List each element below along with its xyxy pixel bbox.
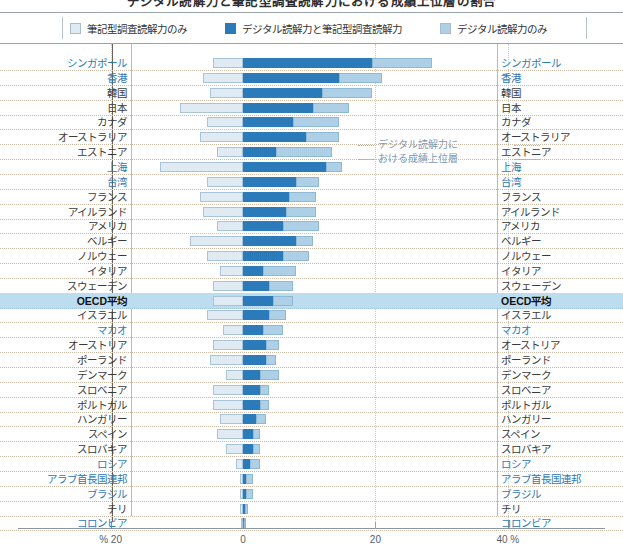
bar-segment-both — [243, 370, 260, 380]
bar-segment-print-only — [217, 429, 243, 439]
bar-segment-both — [243, 400, 260, 410]
bar-group[interactable] — [131, 355, 497, 365]
bar-segment-both — [243, 266, 263, 276]
country-label-right: スロベニア — [501, 382, 621, 398]
x-tick-0 — [243, 521, 244, 529]
country-label-left: オーストリア — [0, 337, 127, 353]
bar-group[interactable] — [131, 429, 497, 439]
bar-segment-digital-only — [266, 340, 279, 350]
bar-group[interactable] — [131, 117, 497, 127]
country-label-left: スペイン — [0, 426, 127, 442]
legend-swatch-digital_only — [440, 23, 451, 34]
bar-segment-both — [243, 429, 253, 439]
country-label-left: ノルウェー — [0, 248, 127, 264]
bar-group[interactable] — [131, 310, 497, 320]
bar-segment-print-only — [200, 132, 243, 142]
country-label-left: ロシア — [0, 456, 127, 472]
country-label-left: イタリア — [0, 263, 127, 279]
bar-segment-digital-only — [283, 221, 319, 231]
country-label-right: エストニア — [501, 144, 621, 160]
bar-group[interactable] — [131, 236, 497, 246]
bar-segment-print-only — [217, 221, 243, 231]
bar-group[interactable] — [131, 400, 497, 410]
country-label-right: マカオ — [501, 322, 621, 338]
country-label-left: 日本 — [0, 100, 127, 116]
bar-segment-digital-only — [322, 88, 372, 98]
country-label-left: 香港 — [0, 70, 127, 86]
legend-divider-left — [62, 17, 63, 39]
bar-group[interactable] — [131, 325, 497, 335]
bar-group[interactable] — [131, 221, 497, 231]
country-label-right: アメリカ — [501, 218, 621, 234]
bar-group[interactable] — [131, 340, 497, 350]
country-label-right: アラブ首長国連邦 — [501, 471, 621, 487]
country-label-right: オーストリア — [501, 337, 621, 353]
bar-group[interactable] — [131, 504, 497, 514]
bar-group[interactable] — [131, 518, 497, 528]
bar-group[interactable] — [131, 444, 497, 454]
bar-segment-digital-only — [246, 474, 253, 484]
bar-group[interactable] — [131, 281, 497, 291]
bar-segment-digital-only — [245, 504, 248, 514]
country-label-right: ハンガリー — [501, 411, 621, 427]
bar-segment-print-only — [213, 340, 243, 350]
bar-group[interactable] — [131, 251, 497, 261]
legend-items: 筆記型調査読解力のみデジタル読解力と筆記型調査読解力デジタル読解力のみ — [70, 13, 583, 43]
x-tick-label-20: 20 — [370, 534, 381, 545]
country-label-left: スロベニア — [0, 382, 127, 398]
bar-segment-print-only — [226, 444, 243, 454]
bar-group[interactable] — [131, 474, 497, 484]
bar-segment-both — [243, 162, 326, 172]
bar-segment-digital-only — [246, 489, 253, 499]
country-label-right: カナダ — [501, 114, 621, 130]
bar-segment-both — [243, 385, 260, 395]
x-axis-line — [18, 528, 605, 529]
bar-group[interactable] — [131, 385, 497, 395]
bar-group[interactable] — [131, 266, 497, 276]
legend-item-both[interactable]: デジタル読解力と筆記型調査読解力 — [225, 21, 402, 36]
legend-swatch-both — [225, 23, 236, 34]
bar-group[interactable] — [131, 370, 497, 380]
legend-item-print_only[interactable]: 筆記型調査読解力のみ — [70, 21, 187, 36]
bar-group[interactable] — [131, 103, 497, 113]
bar-group[interactable] — [131, 414, 497, 424]
country-label-right: フランス — [501, 189, 621, 205]
bar-group[interactable] — [131, 192, 497, 202]
bar-segment-print-only — [213, 58, 243, 68]
country-label-right: ポルトガル — [501, 397, 621, 413]
bar-segment-digital-only — [372, 58, 432, 68]
country-label-left: アイルランド — [0, 204, 127, 220]
bar-segment-print-only — [236, 459, 243, 469]
bar-segment-print-only — [203, 73, 243, 83]
bar-group[interactable] — [131, 58, 497, 68]
bar-segment-digital-only — [260, 370, 280, 380]
legend-item-digital_only[interactable]: デジタル読解力のみ — [440, 21, 547, 36]
bar-segment-print-only — [217, 147, 243, 157]
bar-group[interactable] — [131, 177, 497, 187]
bar-segment-digital-only — [263, 325, 283, 335]
bar-segment-digital-only — [313, 103, 349, 113]
bar-segment-both — [243, 444, 253, 454]
annotation-line-1: デジタル読解力に — [378, 138, 510, 152]
bar-segment-print-only — [213, 296, 243, 306]
bar-group[interactable] — [131, 207, 497, 217]
bar-segment-digital-only — [263, 266, 296, 276]
country-label-left: チリ — [0, 501, 127, 517]
bar-group[interactable] — [131, 459, 497, 469]
bar-group[interactable] — [131, 88, 497, 98]
legend-divider-right — [586, 17, 587, 39]
bar-group[interactable] — [131, 296, 497, 306]
bar-segment-print-only — [180, 103, 243, 113]
bar-segment-both — [243, 414, 256, 424]
bar-segment-digital-only — [276, 147, 332, 157]
bar-group[interactable] — [131, 489, 497, 499]
country-label-left: アメリカ — [0, 218, 127, 234]
bar-segment-print-only — [213, 385, 243, 395]
country-label-right: 韓国 — [501, 85, 621, 101]
bar-segment-both — [243, 325, 263, 335]
bar-segment-digital-only — [266, 355, 276, 365]
country-label-left: スウェーデン — [0, 278, 127, 294]
bar-group[interactable] — [131, 73, 497, 83]
bar-segment-print-only — [210, 88, 243, 98]
bar-segment-both — [243, 177, 296, 187]
